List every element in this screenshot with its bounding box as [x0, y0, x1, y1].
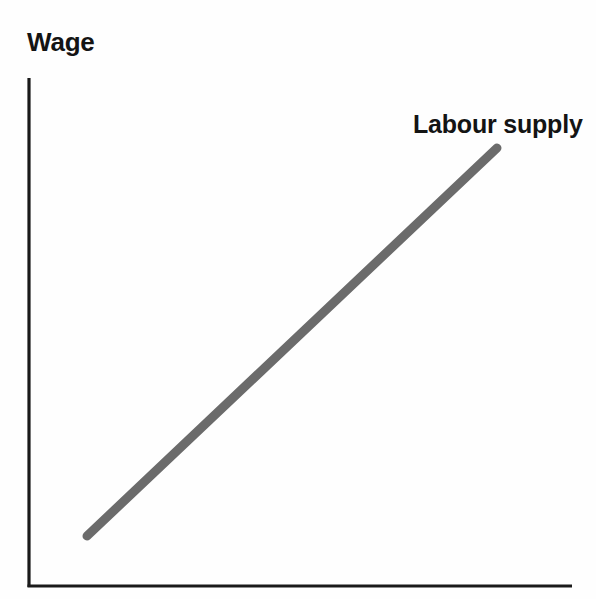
labour-supply-line [87, 148, 497, 536]
series-label-labour-supply: Labour supply [413, 112, 583, 137]
y-axis-title: Wage [27, 29, 95, 55]
chart-canvas [0, 0, 596, 599]
labour-supply-chart-figure: Wage Labour supply [0, 0, 596, 599]
